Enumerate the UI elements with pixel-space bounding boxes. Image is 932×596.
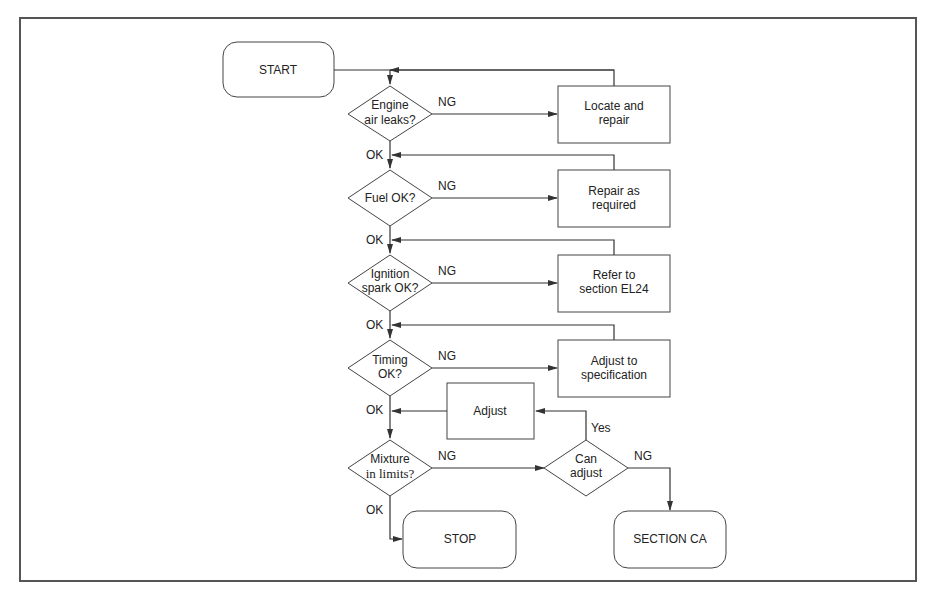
svg-text:Refer to: Refer to [593, 268, 636, 282]
ng-label: NG [634, 449, 652, 463]
yes-label: Yes [591, 421, 611, 435]
stop-terminal: STOP [403, 511, 516, 568]
decision-fuel-ok: Fuel OK? [348, 170, 432, 226]
svg-text:repair: repair [599, 113, 630, 127]
decision-timing-ok: Timing OK? [348, 340, 432, 396]
svg-text:Can: Can [575, 452, 597, 466]
svg-text:adjust: adjust [570, 466, 603, 480]
section-ca-label: SECTION CA [633, 532, 706, 546]
svg-text:Mixture: Mixture [370, 452, 410, 466]
svg-text:Locate and: Locate and [584, 99, 643, 113]
decision-engine-air-leaks: Engine air leaks? [348, 86, 432, 141]
svg-text:Ignition: Ignition [371, 267, 410, 281]
svg-text:Adjust: Adjust [473, 404, 507, 418]
ng-label: NG [438, 264, 456, 278]
decision-can-adjust: Can adjust [544, 440, 628, 496]
svg-text:in limits?: in limits? [366, 466, 415, 481]
ok-label: OK [366, 503, 383, 517]
svg-text:specification: specification [581, 368, 647, 382]
svg-text:spark OK?: spark OK? [362, 281, 419, 295]
svg-text:section EL24: section EL24 [579, 282, 649, 296]
process-repair-as-required: Repair as required [558, 170, 670, 227]
process-adjust-to-specification: Adjust to specification [558, 340, 670, 397]
svg-text:Adjust to: Adjust to [591, 354, 638, 368]
ng-label: NG [438, 95, 456, 109]
start-connector [334, 70, 614, 86]
start-terminal: START [223, 42, 334, 97]
svg-text:Timing: Timing [372, 353, 408, 367]
decision-mixture-in-limits: Mixture in limits? [348, 440, 432, 496]
decision-ignition-spark-ok: Ignition spark OK? [348, 255, 432, 311]
svg-text:Repair as: Repair as [588, 184, 639, 198]
ng-label: NG [438, 349, 456, 363]
process-adjust: Adjust [447, 383, 534, 439]
svg-text:OK?: OK? [378, 367, 402, 381]
svg-text:required: required [592, 198, 636, 212]
ok-label: OK [366, 148, 383, 162]
ng-label: NG [438, 179, 456, 193]
flowchart: START Engine air leaks? NG Locate and re… [0, 0, 932, 596]
ok-label: OK [366, 318, 383, 332]
section-ca-terminal: SECTION CA [614, 511, 726, 568]
diagram-frame [20, 18, 916, 581]
stop-label: STOP [444, 532, 476, 546]
ok-label: OK [366, 233, 383, 247]
ng-label: NG [438, 449, 456, 463]
svg-text:Fuel OK?: Fuel OK? [365, 191, 416, 205]
svg-text:Engine: Engine [371, 98, 409, 112]
process-refer-to-section-el24: Refer to section EL24 [558, 255, 670, 312]
svg-text:air leaks?: air leaks? [364, 113, 416, 127]
ok-label: OK [366, 403, 383, 417]
process-locate-and-repair: Locate and repair [558, 86, 670, 143]
start-label: START [259, 63, 298, 77]
